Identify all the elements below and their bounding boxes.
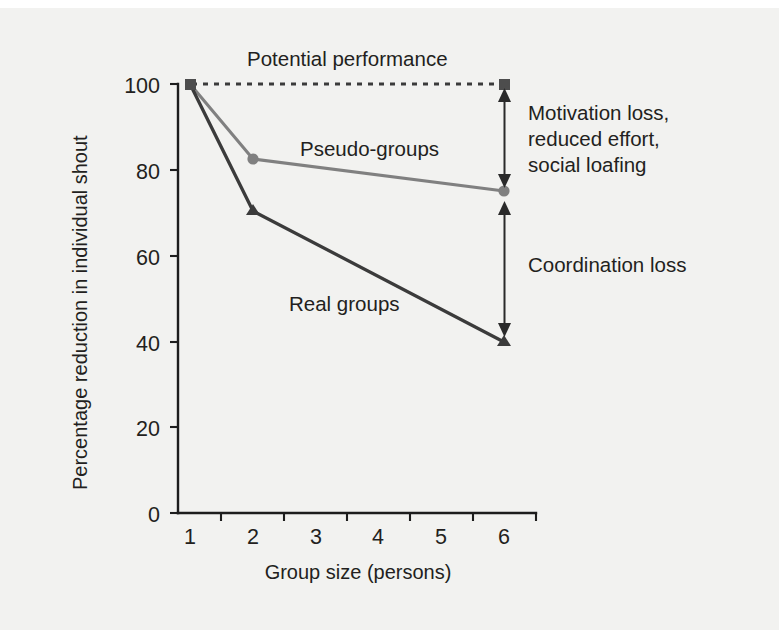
y-axis-title: Percentage reduction in individual shout	[68, 30, 92, 490]
x-tick-label-5: 5	[421, 524, 461, 550]
x-tick-label-4: 4	[358, 524, 398, 550]
x-tick-label-3: 3	[296, 524, 336, 550]
y-tick-label-100: 100	[100, 73, 160, 99]
x-tick-label-2: 2	[233, 524, 273, 550]
annotation-label-motivation-loss-line3: social loafing	[528, 152, 647, 177]
annotation-label-motivation-loss-line1: Motivation loss,	[528, 100, 669, 125]
x-tick-label-6: 6	[484, 524, 524, 550]
series-label-potential-performance: Potential performance	[247, 46, 448, 71]
annotation-arrow-coordination-loss	[498, 201, 511, 337]
y-tick-label-80: 80	[100, 159, 160, 185]
y-tick-label-60: 60	[100, 245, 160, 271]
figure-canvas: 100 80 60 40 20 0 1 2 3 4 5 6 Group size…	[0, 0, 779, 643]
series-label-real-groups: Real groups	[289, 291, 400, 316]
annotation-label-motivation-loss-line2: reduced effort,	[528, 126, 660, 151]
annotation-label-coordination-loss: Coordination loss	[528, 252, 686, 277]
y-tick-label-0: 0	[100, 502, 160, 528]
y-tick-label-40: 40	[100, 331, 160, 357]
x-tick-label-1: 1	[170, 524, 210, 550]
x-axis-title: Group size (persons)	[158, 560, 558, 584]
series-label-pseudo-groups: Pseudo-groups	[300, 136, 439, 161]
annotation-arrow-motivation-loss	[498, 88, 511, 188]
y-tick-label-20: 20	[100, 416, 160, 442]
